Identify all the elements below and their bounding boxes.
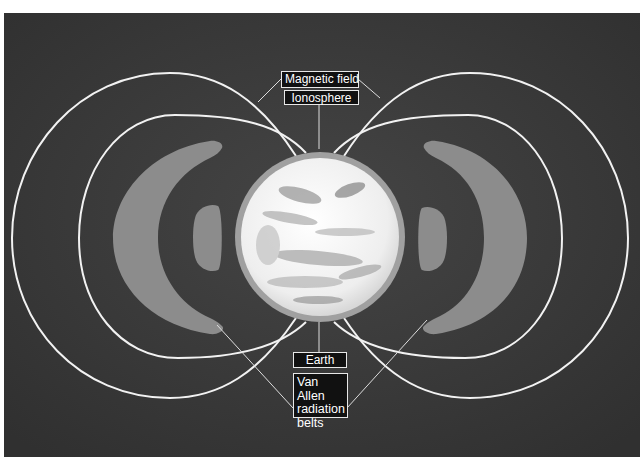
van-allen-label: Van Allen radiation belts <box>293 373 348 418</box>
earth-globe <box>241 158 399 316</box>
van-allen-line-1: Van Allen <box>297 376 344 403</box>
van-allen-line-3: belts <box>297 417 344 431</box>
inner-belt-left <box>193 205 222 271</box>
ionosphere-label: Ionosphere <box>284 90 359 105</box>
magnetic-field-label: Magnetic field <box>281 71 359 88</box>
earth-label: Earth <box>293 352 347 368</box>
van-allen-line-2: radiation <box>297 403 344 417</box>
inner-belt-right <box>418 207 447 271</box>
